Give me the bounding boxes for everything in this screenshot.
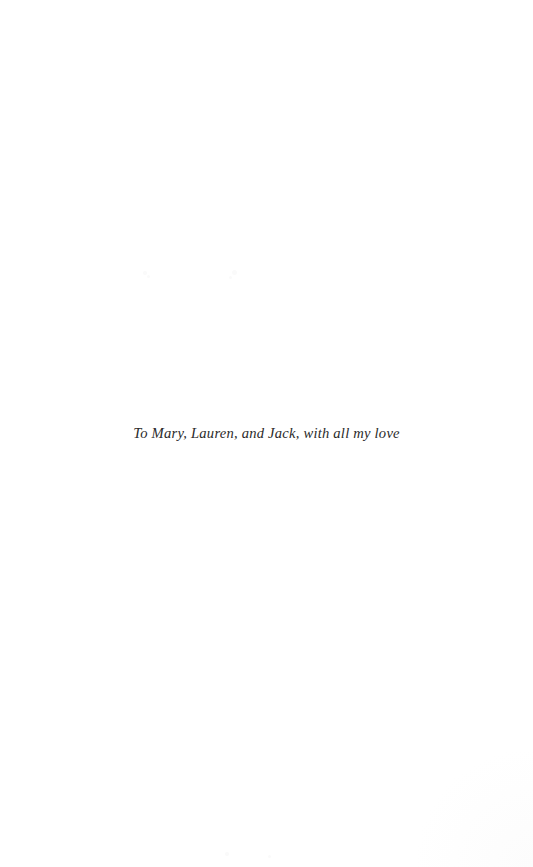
- scan-speck: [229, 276, 232, 279]
- paper-tint: [413, 747, 533, 867]
- scan-speck: [268, 855, 271, 858]
- dedication-text: To Mary, Lauren, and Jack, with all my l…: [133, 423, 400, 443]
- scan-speck: [225, 852, 229, 856]
- scan-speck: [147, 275, 150, 278]
- dedication-block: To Mary, Lauren, and Jack, with all my l…: [0, 423, 533, 443]
- dedication-page: To Mary, Lauren, and Jack, with all my l…: [0, 0, 533, 867]
- scan-speck: [232, 270, 237, 275]
- scan-speck: [143, 271, 147, 275]
